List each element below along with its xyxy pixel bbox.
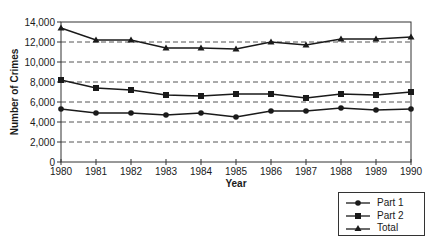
triangle-marker-icon <box>58 25 65 31</box>
y-axis: 02,0004,0006,0008,00010,00012,00014,000 <box>24 17 61 168</box>
square-marker-icon <box>163 92 169 98</box>
square-marker-icon <box>93 85 99 91</box>
circle-marker-icon <box>93 110 99 116</box>
circle-marker-icon <box>373 107 379 113</box>
y-axis-title: Number of Crimes <box>9 48 20 135</box>
circle-marker-icon <box>408 106 414 112</box>
y-tick-label: 2,000 <box>30 137 55 148</box>
x-tick-label: 1990 <box>400 166 423 177</box>
legend-item-total: Total <box>345 222 398 234</box>
y-tick-label: 12,000 <box>24 37 55 48</box>
circle-marker-icon <box>198 110 204 116</box>
x-tick-label: 1983 <box>155 166 178 177</box>
square-marker-icon <box>58 77 64 83</box>
circle-marker-icon <box>233 114 239 120</box>
legend-label: Part 2 <box>377 210 404 222</box>
square-marker-icon <box>198 93 204 99</box>
data-series <box>58 25 415 120</box>
x-tick-label: 1982 <box>120 166 143 177</box>
square-marker-icon <box>303 95 309 101</box>
circle-marker-icon <box>58 106 64 112</box>
y-tick-label: 4,000 <box>30 117 55 128</box>
x-tick-label: 1984 <box>190 166 213 177</box>
series-part-1 <box>58 105 414 120</box>
square-marker-icon <box>128 87 134 93</box>
square-marker-icon <box>345 210 371 222</box>
square-marker-icon <box>408 89 414 95</box>
x-axis-title: Year <box>225 178 246 189</box>
circle-marker-icon <box>128 110 134 116</box>
y-tick-label: 8,000 <box>30 77 55 88</box>
y-tick-label: 6,000 <box>30 97 55 108</box>
square-marker-icon <box>373 92 379 98</box>
square-marker-icon <box>268 91 274 97</box>
circle-marker-icon <box>338 105 344 111</box>
circle-marker-icon <box>303 108 309 114</box>
x-tick-label: 1981 <box>85 166 108 177</box>
legend-item-part2: Part 2 <box>345 210 404 222</box>
y-tick-label: 10,000 <box>24 57 55 68</box>
x-tick-label: 1988 <box>330 166 353 177</box>
square-marker-icon <box>233 91 239 97</box>
square-marker-icon <box>338 91 344 97</box>
circle-marker-icon <box>345 197 371 209</box>
legend-item-part1: Part 1 <box>345 197 404 209</box>
x-tick-label: 1989 <box>365 166 388 177</box>
x-tick-label: 1987 <box>295 166 318 177</box>
series-total <box>58 25 415 52</box>
x-tick-label: 1980 <box>50 166 73 177</box>
triangle-marker-icon <box>345 222 371 234</box>
legend: Part 1 Part 2 Total <box>338 192 425 236</box>
legend-label: Total <box>377 222 398 234</box>
legend-label: Part 1 <box>377 197 404 209</box>
circle-marker-icon <box>268 108 274 114</box>
x-tick-label: 1985 <box>225 166 248 177</box>
circle-marker-icon <box>163 112 169 118</box>
series-part-2 <box>58 77 414 101</box>
x-tick-label: 1986 <box>260 166 283 177</box>
y-tick-label: 14,000 <box>24 17 55 28</box>
